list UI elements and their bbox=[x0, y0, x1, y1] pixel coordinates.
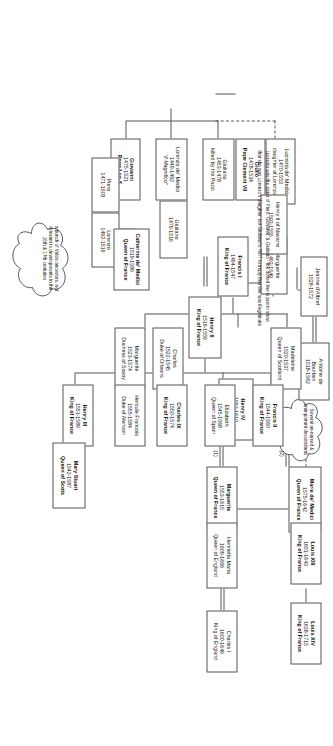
person-name: Mary Stuart bbox=[72, 460, 78, 490]
person-node-giuliano-1479[interactable]: Giuliano 1479-1516 bbox=[159, 200, 187, 258]
person-name: Hercule Francois bbox=[133, 395, 139, 436]
person-node-marguerite-duchess-of-savoy[interactable]: Marguerite 1523-1574 Duchess of Savoy bbox=[114, 327, 145, 389]
person-name: Marguerite bbox=[225, 483, 231, 511]
person-title: King of France bbox=[296, 614, 302, 651]
person-title: Duke of Alencon bbox=[120, 396, 126, 435]
person-dates: 1555-1584 bbox=[126, 403, 132, 428]
dotted-connector bbox=[215, 120, 275, 121]
person-name: Francis I bbox=[236, 255, 242, 277]
connector bbox=[305, 588, 306, 602]
person-name: Catherine de' Medici bbox=[134, 233, 140, 285]
cloud-unnamed-descendants-text: Several un-named & unimportant descendan… bbox=[301, 398, 313, 460]
person-node-madeleine[interactable]: Madeleine 1520-1537 Queen of Scotland bbox=[270, 327, 301, 389]
person-name: Giovanni bbox=[128, 157, 134, 180]
person-node-henrietta-maria[interactable]: Henrietta Maria 1609-1669 Queen of Engla… bbox=[206, 522, 237, 588]
person-title: King of France bbox=[258, 396, 264, 433]
person-node-catherine-de-medici[interactable]: Catherine de' Medici 1519-1589 Queen of … bbox=[113, 228, 149, 290]
person-dates: 1544-1560 bbox=[264, 403, 270, 428]
person-node-hercule-francois[interactable]: Hercule Francois 1555-1584 Duke of Alenc… bbox=[114, 384, 145, 446]
person-title: King of France bbox=[223, 247, 229, 284]
person-dates: 1609-1669 bbox=[218, 543, 224, 568]
person-node-jeanne-dalbret[interactable]: Jeanne d'Albret 1528-1572 bbox=[300, 256, 327, 316]
person-title: King of France bbox=[296, 534, 302, 571]
person-dates: 1519-1559 bbox=[201, 315, 207, 340]
person-dates: 1545-1568 bbox=[216, 403, 222, 428]
person-dates: 1522-1545 bbox=[164, 346, 170, 371]
person-name: Charles bbox=[171, 349, 177, 368]
person-node-piero[interactable]: Piero 1471-1503 bbox=[91, 157, 119, 212]
person-dates: 1520-1537 bbox=[282, 346, 288, 371]
person-dates: 1470-1553 bbox=[277, 159, 283, 184]
connector bbox=[237, 313, 238, 327]
connector bbox=[217, 120, 218, 138]
person-name: Henry II bbox=[208, 317, 214, 337]
marriage-tag-first: (1) bbox=[212, 450, 218, 456]
person-title: Queen of England bbox=[212, 534, 218, 577]
lucrezia-note-line2: that she was Lorenzo's daughter, not Giu… bbox=[255, 150, 261, 326]
person-dates: 1519-1589 bbox=[128, 247, 134, 272]
person-node-antoine-de-bourbon[interactable]: Antoine de Bourbon 1518-1562 bbox=[298, 342, 329, 400]
person-node-lorenzo-magnifico[interactable]: Lorenzo de' Medici 1449-1492 “Il Magnifi… bbox=[155, 138, 187, 200]
person-dates: 1475-1521 bbox=[122, 157, 128, 182]
marriage-line bbox=[220, 588, 224, 610]
person-node-charles-ix[interactable]: Charles IX 1550-1574 King of France bbox=[156, 384, 187, 446]
person-title: daughter of Lorenzo bbox=[271, 147, 277, 194]
connector bbox=[144, 313, 145, 327]
person-node-henry-ii[interactable]: Henry II 1519-1559 King of France bbox=[188, 296, 221, 358]
person-dates: 1551-1589 bbox=[74, 403, 80, 428]
person-title: Queen of France bbox=[122, 238, 128, 280]
person-name: Louis XIV bbox=[309, 621, 315, 646]
person-dates: 1523-1574 bbox=[126, 346, 132, 371]
family-tree-diagram: Several un-named & unimportant descendan… bbox=[0, 0, 333, 746]
person-dates: 1471-1503 bbox=[99, 172, 105, 197]
connector bbox=[204, 358, 205, 372]
lucrezia-note-line1: Lucrezia was the sister of Piero, Giovan… bbox=[263, 150, 269, 321]
person-name: Giuliano bbox=[221, 159, 227, 179]
person-title: “Il Magnifico” bbox=[162, 154, 168, 184]
person-dates: 1453-1478 bbox=[215, 157, 221, 182]
person-node-louis-xiv[interactable]: Louis XIV 1638-1715 King of France bbox=[290, 602, 321, 664]
person-node-elizabeth-queen-of-spain[interactable]: Elizabeth 1545-1568 Queen of Spain bbox=[204, 384, 235, 446]
person-name: Madeleine bbox=[289, 346, 295, 371]
person-node-henry-iii[interactable]: Henry III 1551-1589 King of France bbox=[62, 384, 93, 446]
person-dates: 1518-1562 bbox=[304, 359, 310, 384]
person-name: Francis II bbox=[271, 403, 277, 427]
person-node-charles-duke-of-orleans[interactable]: Charles 1522-1545 Duke of Orleans bbox=[152, 327, 183, 389]
person-node-francis-ii[interactable]: Francis II 1544-1560 King of France bbox=[252, 384, 283, 446]
person-title: King of England bbox=[212, 622, 218, 659]
person-title: Duke of Orleans bbox=[158, 339, 164, 377]
person-name: Jeanne d'Albret bbox=[313, 267, 319, 304]
person-name: Piero bbox=[105, 178, 111, 191]
person-title: Queen of France bbox=[212, 476, 218, 518]
dotted-connector bbox=[274, 120, 275, 138]
person-node-charles-i[interactable]: Charles I 1600-1649 King of England bbox=[206, 610, 237, 672]
person-title: Queen of France bbox=[295, 478, 301, 520]
person-node-francis-i[interactable]: Francis I 1494-1547 King of France bbox=[217, 236, 248, 296]
connector bbox=[170, 120, 171, 138]
person-dates: 1478-1534 bbox=[247, 157, 253, 182]
person-dates: 1449-1492 bbox=[168, 157, 174, 182]
person-node-giuliano-pazzi[interactable]: Giuliano 1453-1478 killed by the Pazzi bbox=[202, 138, 234, 200]
person-node-louis-xiii[interactable]: Louis XIII 1601-1643 King of France bbox=[290, 522, 321, 584]
person-dates: 1553-1615 bbox=[218, 485, 224, 510]
person-name: Antoine de bbox=[317, 358, 323, 384]
person-name: Henry II of Navarre bbox=[273, 201, 279, 247]
person-name: Marguerite bbox=[273, 252, 279, 278]
person-title: King of France bbox=[162, 396, 168, 433]
person-name: Marguerite bbox=[133, 345, 139, 371]
person-dates: 1542-1587 bbox=[65, 463, 71, 488]
connector bbox=[215, 93, 235, 94]
person-node-marguerite-1553[interactable]: Marguerite 1553-1615 Queen of France bbox=[206, 466, 237, 528]
person-title: King of France bbox=[68, 396, 74, 433]
person-title: Queen of Scotland bbox=[276, 336, 282, 380]
cloud-valois-ancestors-text: a bunch of Valois ancestors, not relevan… bbox=[40, 223, 58, 293]
person-dates: 1575-1642 bbox=[301, 487, 307, 512]
person-dates: 1638-1715 bbox=[302, 621, 308, 646]
person-title: Queen of Spain bbox=[210, 397, 216, 434]
person-title: King of France bbox=[195, 308, 201, 345]
person-node-mary-stuart[interactable]: Mary Stuart 1542-1587 Queen of Scots bbox=[52, 442, 85, 508]
person-name: Louis XIII bbox=[309, 541, 315, 565]
person-title: Bourbon bbox=[310, 361, 316, 381]
person-dates: 1550-1574 bbox=[168, 403, 174, 428]
person-title: Queen of Scots bbox=[59, 456, 65, 495]
